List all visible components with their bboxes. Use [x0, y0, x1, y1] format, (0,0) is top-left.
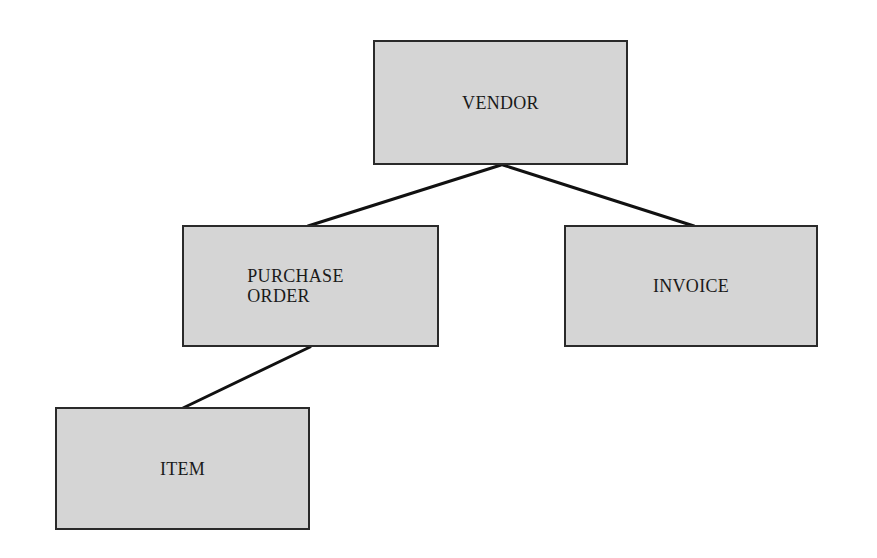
- node-vendor: VENDOR: [373, 40, 628, 165]
- edge-purchase-order-item: [183, 347, 310, 408]
- node-purchase-order: PURCHASE ORDER: [182, 225, 439, 347]
- edge-vendor-purchase-order: [308, 165, 501, 226]
- node-invoice: INVOICE: [564, 225, 818, 347]
- node-label: INVOICE: [653, 276, 729, 296]
- edge-vendor-invoice: [503, 165, 694, 226]
- node-label: ITEM: [160, 459, 205, 479]
- node-item: ITEM: [55, 407, 310, 530]
- node-label: PURCHASE ORDER: [247, 266, 373, 306]
- node-label: VENDOR: [462, 93, 539, 113]
